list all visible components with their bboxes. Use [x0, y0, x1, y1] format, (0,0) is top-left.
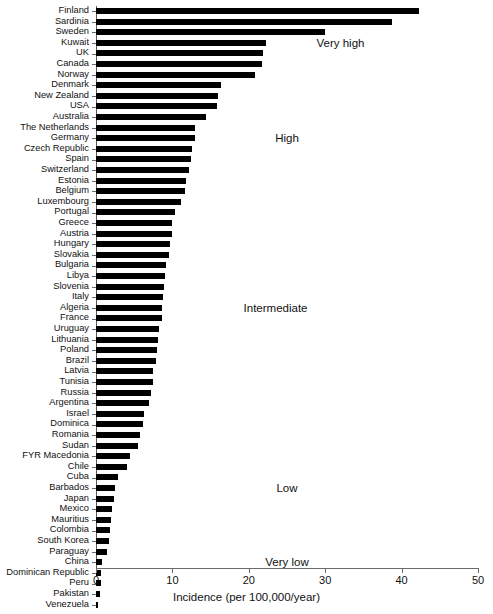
category-label: Greece	[59, 217, 90, 228]
bar	[96, 199, 181, 205]
bar	[96, 40, 266, 46]
bar	[96, 485, 115, 491]
bar-row: Slovenia	[96, 282, 478, 293]
bar	[96, 284, 164, 290]
bar	[96, 262, 166, 268]
bar	[96, 252, 169, 258]
bar	[96, 474, 118, 480]
category-label: Barbados	[49, 482, 89, 493]
category-label: Slovakia	[54, 249, 89, 260]
x-tick-mark	[96, 568, 97, 573]
x-tick-label: 50	[472, 574, 484, 586]
bar	[96, 443, 138, 449]
bar-row: Luxembourg	[96, 197, 478, 208]
bar	[96, 390, 151, 396]
bar-row: Peru	[96, 578, 478, 589]
category-label: Cuba	[67, 471, 89, 482]
bar-row: Argentina	[96, 398, 478, 409]
bar	[96, 432, 140, 438]
bar-row: South Korea	[96, 536, 478, 547]
x-tick-label: 20	[243, 574, 255, 586]
category-label: Belgium	[55, 185, 89, 196]
bar-row: Australia	[96, 112, 478, 123]
bar-row: Switzerland	[96, 165, 478, 176]
category-label: Estonia	[58, 175, 89, 186]
bar-row: FYR Macedonia	[96, 451, 478, 462]
bar-row: Mexico	[96, 504, 478, 515]
category-label: Algeria	[60, 302, 89, 313]
category-label: FYR Macedonia	[22, 450, 89, 461]
bar	[96, 527, 110, 533]
bar	[96, 517, 111, 523]
bar	[96, 506, 112, 512]
category-label: Uruguay	[54, 323, 89, 334]
bar	[96, 538, 109, 544]
bar-row: Greece	[96, 218, 478, 229]
category-label: USA	[70, 100, 89, 111]
bar-row: Russia	[96, 388, 478, 399]
bar	[96, 8, 419, 14]
category-label: Denmark	[51, 79, 89, 90]
bar	[96, 241, 170, 247]
category-label: Hungary	[54, 238, 89, 249]
category-label: France	[60, 312, 89, 323]
category-label: Finland	[59, 5, 90, 16]
category-label: Norway	[57, 69, 89, 80]
region-annotation-label: Very low	[265, 556, 308, 568]
bar	[96, 167, 189, 173]
category-label: Italy	[72, 291, 89, 302]
bar-row: Sardinia	[96, 17, 478, 28]
bar-row: Japan	[96, 494, 478, 505]
x-tick-label: 30	[319, 574, 331, 586]
bar	[96, 559, 102, 565]
bar-row: Sweden	[96, 27, 478, 38]
bar-row: Sudan	[96, 441, 478, 452]
bar	[96, 421, 143, 427]
region-annotation-label: High	[275, 132, 299, 144]
bar-row: Dominican Republic	[96, 568, 478, 579]
bar	[96, 29, 325, 35]
category-label: Luxembourg	[37, 196, 89, 207]
bar-row: Denmark	[96, 80, 478, 91]
bar	[96, 464, 127, 470]
bar	[96, 337, 158, 343]
bar-row: Libya	[96, 271, 478, 282]
category-label: Australia	[53, 111, 89, 122]
bar-row: USA	[96, 101, 478, 112]
bar	[96, 19, 392, 25]
bar	[96, 50, 263, 56]
category-label: Russia	[61, 387, 89, 398]
category-label: South Korea	[37, 535, 89, 546]
bar	[96, 358, 156, 364]
bar	[96, 368, 153, 374]
bar	[96, 135, 195, 141]
bar	[96, 72, 255, 78]
bar-row: Austria	[96, 229, 478, 240]
category-label: New Zealand	[34, 90, 89, 101]
x-tick-label: 0	[93, 574, 99, 586]
category-label: Dominica	[50, 418, 89, 429]
bar-row: Tunisia	[96, 377, 478, 388]
bar-row: Chile	[96, 462, 478, 473]
category-label: Argentina	[49, 397, 89, 408]
region-annotation-label: Very high	[316, 37, 364, 49]
category-label: Chile	[68, 461, 89, 472]
category-label: Paraguay	[49, 546, 89, 557]
bar-row: Lithuania	[96, 335, 478, 346]
category-label: Sardinia	[55, 16, 89, 27]
category-label: Sweden	[55, 26, 89, 37]
region-annotation-label: Low	[276, 482, 297, 494]
bar	[96, 400, 149, 406]
bar-row: Estonia	[96, 176, 478, 187]
category-label: Dominican Republic	[6, 567, 89, 578]
bar	[96, 114, 206, 120]
x-tick-label: 40	[395, 574, 407, 586]
category-label: Sudan	[62, 440, 89, 451]
bar	[96, 156, 191, 162]
category-label: China	[65, 556, 89, 567]
category-label: The Netherlands	[20, 122, 89, 133]
bar	[96, 315, 162, 321]
category-label: Libya	[67, 270, 89, 281]
region-annotation-label: Intermediate	[244, 302, 308, 314]
category-label: Tunisia	[59, 376, 89, 387]
